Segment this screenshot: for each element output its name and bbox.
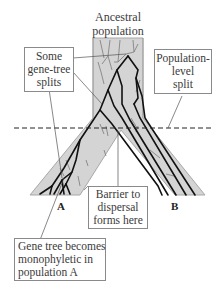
label-line: gene-tree [25, 63, 73, 76]
label-line: level [155, 65, 211, 78]
gene-tree-splits-label: Some gene-tree splits [24, 47, 74, 92]
label-line: forms here [89, 214, 147, 227]
label-line: population A [18, 266, 102, 279]
population-b-label: B [171, 200, 178, 212]
population-split-label: Population- level split [154, 49, 212, 94]
title-line-2: population [84, 24, 152, 38]
label-line: Some [25, 50, 73, 63]
label-line: Barrier to [89, 188, 147, 201]
label-line: dispersal [89, 201, 147, 214]
ancestral-population-title: Ancestral population [84, 10, 152, 38]
barrier-label: Barrier to dispersal forms here [88, 186, 148, 229]
label-line: Population- [155, 52, 211, 65]
title-line-1: Ancestral [84, 10, 152, 24]
population-a-label: A [57, 200, 65, 212]
label-line: Gene tree becomes [18, 240, 102, 253]
label-line: monophyletic in [18, 253, 102, 266]
label-line: split [155, 78, 211, 91]
label-line: splits [25, 76, 73, 89]
monophyletic-label: Gene tree becomes monophyletic in popula… [14, 238, 106, 281]
